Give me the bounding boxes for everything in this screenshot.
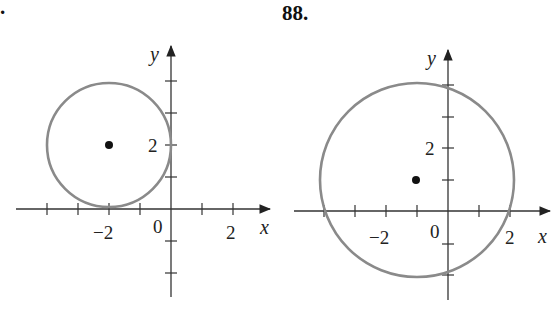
tick-label-y-2: 2: [425, 138, 435, 159]
tick-label-x-neg2: −2: [369, 227, 389, 248]
tick-label-x-2: 2: [226, 222, 236, 243]
problem-88-graph: 88. y x −2 0 2: [282, 1, 550, 300]
y-axis-label: y: [148, 43, 159, 66]
center-point: [105, 141, 113, 149]
tick-label-x-neg2: −2: [93, 222, 113, 243]
origin-label: 0: [430, 221, 440, 242]
y-axis-label: y: [425, 47, 436, 70]
problem-number-87: .: [0, 0, 5, 19]
tick-label-x-2: 2: [505, 227, 515, 248]
problem-87-graph: . y x −2 0 2: [0, 0, 270, 297]
problem-number-88: 88.: [282, 1, 308, 25]
center-point: [412, 176, 420, 184]
x-axis-label: x: [259, 216, 269, 238]
tick-label-y-2: 2: [148, 135, 158, 156]
diagram-canvas: . y x −2 0 2: [0, 0, 560, 320]
x-axis-label: x: [537, 225, 547, 247]
origin-label: 0: [153, 216, 163, 237]
